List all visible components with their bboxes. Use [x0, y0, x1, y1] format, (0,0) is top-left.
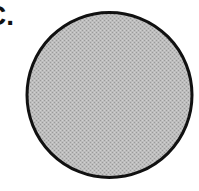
circle-figure — [0, 0, 199, 191]
gray-circle — [27, 13, 192, 178]
